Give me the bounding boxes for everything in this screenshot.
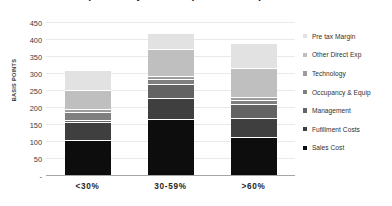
bar-segment[interactable]: [231, 69, 277, 98]
bar-segment[interactable]: [148, 85, 194, 99]
legend-swatch-icon: [303, 127, 307, 131]
legend-swatch-icon: [303, 34, 307, 38]
legend-swatch-icon: [303, 108, 307, 112]
bar-column[interactable]: <30%: [65, 71, 111, 175]
legend-item-label: Sales Cost: [312, 144, 344, 151]
legend-item-label: Other Direct Exp: [312, 51, 362, 58]
legend-item[interactable]: Management: [303, 101, 392, 120]
legend-swatch-icon: [303, 53, 307, 57]
bar-segment[interactable]: [65, 113, 111, 120]
y-axis-tick-label: 300: [8, 70, 42, 79]
y-axis-tick-label: 50: [8, 155, 42, 164]
x-axis-tick-label: >60%: [211, 182, 297, 191]
legend-item[interactable]: Other Direct Exp: [303, 46, 392, 65]
bar-segment[interactable]: [231, 44, 277, 68]
stacked-bar-chart: Cost Comparison by Channel (Basis Points…: [0, 0, 392, 206]
legend-item-label: Fufillment Costs: [312, 126, 360, 133]
chart-legend: Pre tax MarginOther Direct ExpTechnology…: [303, 27, 392, 157]
legend-swatch-icon: [303, 71, 307, 75]
y-axis-tick-label: 100: [8, 138, 42, 147]
x-axis-tick-label: <30%: [45, 182, 131, 191]
plot-area: -50100150200250300350400450 <30%30-59%>6…: [46, 22, 295, 176]
y-axis-tick-label: 450: [8, 19, 42, 28]
bar-segment[interactable]: [231, 105, 277, 119]
bar-column[interactable]: >60%: [231, 44, 277, 175]
y-axis-tick-label: -: [8, 172, 42, 181]
legend-item-label: Technology: [312, 70, 346, 77]
legend-swatch-icon: [303, 146, 307, 150]
gridline: [46, 22, 295, 23]
legend-item[interactable]: Pre tax Margin: [303, 27, 392, 46]
y-axis-tick-label: 350: [8, 53, 42, 62]
legend-item-label: Management: [312, 107, 351, 114]
bar-segment[interactable]: [65, 141, 111, 175]
y-axis-tick-label: 150: [8, 121, 42, 130]
bar-segment[interactable]: [65, 123, 111, 141]
chart-title: Cost Comparison by Channel (Basis Points…: [0, 0, 300, 1]
legend-item-label: Pre tax Margin: [312, 33, 356, 40]
bar-column[interactable]: 30-59%: [148, 34, 194, 175]
y-axis-tick-label: 200: [8, 104, 42, 113]
legend-item[interactable]: Fufillment Costs: [303, 120, 392, 139]
legend-item[interactable]: Technology: [303, 64, 392, 83]
legend-swatch-icon: [303, 90, 307, 94]
legend-item-label: Occupancy & Equip: [312, 89, 371, 96]
y-axis-tick-label: 400: [8, 36, 42, 45]
bar-segment[interactable]: [148, 99, 194, 120]
x-axis-line: [46, 175, 295, 176]
y-axis-tick-label: 250: [8, 87, 42, 96]
bar-segment[interactable]: [148, 120, 194, 175]
legend-item[interactable]: Sales Cost: [303, 139, 392, 158]
bar-segment[interactable]: [231, 119, 277, 139]
bar-segment[interactable]: [148, 34, 194, 50]
bar-segment[interactable]: [148, 50, 194, 77]
legend-item[interactable]: Occupancy & Equip: [303, 83, 392, 102]
bar-segment[interactable]: [65, 91, 111, 110]
x-axis-tick-label: 30-59%: [128, 182, 214, 191]
bar-segment[interactable]: [65, 71, 111, 91]
bar-segment[interactable]: [231, 138, 277, 175]
